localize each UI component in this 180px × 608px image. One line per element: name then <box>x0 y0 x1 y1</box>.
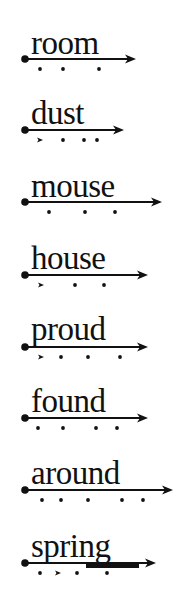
sound-dot-icon <box>120 498 124 502</box>
sound-dot-icon <box>141 498 145 502</box>
sound-dot-icon <box>61 138 65 142</box>
sound-dot-icon <box>86 355 90 359</box>
sound-dot-icon <box>75 571 79 575</box>
sound-dot-icon <box>47 210 51 214</box>
sound-dot-icon <box>115 426 119 430</box>
start-dot-icon <box>21 414 29 422</box>
start-dot-icon <box>21 271 29 279</box>
sound-dot-icon <box>59 355 63 359</box>
start-dot-icon <box>21 559 29 567</box>
sound-dot-icon <box>73 283 77 287</box>
arrow-graphics <box>0 0 180 608</box>
start-dot-icon <box>21 486 29 494</box>
sound-dot-icon <box>83 210 87 214</box>
start-dot-icon <box>21 55 29 63</box>
sound-dot-icon <box>86 498 90 502</box>
sound-dot-icon <box>94 426 98 430</box>
sound-dot-icon <box>40 498 44 502</box>
sound-dot-icon <box>38 67 42 71</box>
sound-dot-icon <box>105 571 109 575</box>
sound-dot-icon <box>36 426 40 430</box>
start-dot-icon <box>21 126 29 134</box>
sound-arrow-icon <box>38 283 44 288</box>
sound-dot-icon <box>113 210 117 214</box>
sound-dot-icon <box>61 426 65 430</box>
sound-arrow-icon <box>37 138 43 143</box>
sound-dot-icon <box>38 571 42 575</box>
sound-dot-icon <box>59 498 63 502</box>
sound-dot-icon <box>97 67 101 71</box>
sound-dot-icon <box>95 138 99 142</box>
sound-arrow-icon <box>55 571 61 576</box>
sound-dot-icon <box>102 283 106 287</box>
start-dot-icon <box>21 343 29 351</box>
start-dot-icon <box>21 198 29 206</box>
sound-dot-icon <box>61 67 65 71</box>
sound-dot-icon <box>118 355 122 359</box>
sound-dot-icon <box>82 138 86 142</box>
sound-arrow-icon <box>38 355 44 360</box>
